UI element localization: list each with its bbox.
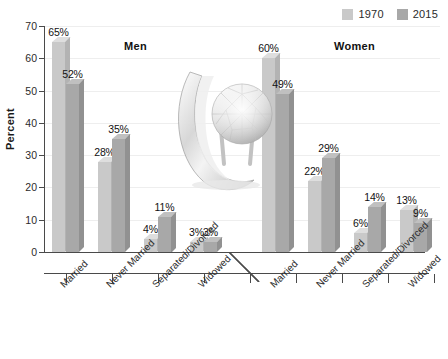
bar-women-separated-divorced-2015: 14% xyxy=(368,207,381,252)
bar-value-label: 13% xyxy=(396,194,417,206)
bar-men-separated-divorced-2015: 11% xyxy=(158,217,171,253)
y-tick-label-20: 20 xyxy=(25,181,37,193)
bar-side xyxy=(427,218,432,252)
x-axis-labels: MarriedNever MarriedSeparated/DivorcedWi… xyxy=(44,282,444,358)
legend-entry-2015: 2015 xyxy=(397,8,438,20)
bar-side xyxy=(79,79,84,252)
bar-side xyxy=(171,212,176,253)
bar-men-never-married-2015: 35% xyxy=(112,139,125,252)
bar-face xyxy=(308,181,321,252)
bar-face xyxy=(204,242,217,252)
bar-value-label: 11% xyxy=(155,201,175,213)
bar-value-label: 4% xyxy=(143,223,158,235)
bar-face xyxy=(322,158,335,252)
legend-swatch-2015 xyxy=(397,9,408,20)
bar-value-label: 6% xyxy=(353,217,368,229)
y-tick-label-10: 10 xyxy=(25,214,37,226)
bar-side xyxy=(335,153,340,252)
bar-value-label: 9% xyxy=(413,207,428,219)
y-tick-label-60: 60 xyxy=(25,52,37,64)
y-tick-label-0: 0 xyxy=(31,246,37,258)
bar-value-label: 14% xyxy=(364,191,385,203)
bar-men-never-married-1970: 28% xyxy=(98,162,111,252)
chart-legend: 1970 2015 xyxy=(342,8,438,20)
bar-value-label: 29% xyxy=(318,142,339,154)
bar-women-never-married-1970: 22% xyxy=(308,181,321,252)
bar-value-label: 52% xyxy=(62,68,83,80)
bar-face xyxy=(276,94,289,252)
bar-side xyxy=(217,237,222,252)
legend-label-1970: 1970 xyxy=(358,8,383,20)
group-title-men: Men xyxy=(124,40,147,52)
bar-value-label: 65% xyxy=(48,26,69,38)
y-tick-label-30: 30 xyxy=(25,149,37,161)
y-tick-label-70: 70 xyxy=(25,20,37,32)
bar-face xyxy=(158,217,171,253)
bar-women-never-married-2015: 29% xyxy=(322,158,335,252)
bar-face xyxy=(368,207,381,252)
y-tick-label-40: 40 xyxy=(25,117,37,129)
bar-women-married-2015: 49% xyxy=(276,94,289,252)
bar-men-widowed-2015: 3% xyxy=(204,242,217,252)
y-tick-label-50: 50 xyxy=(25,85,37,97)
bar-face xyxy=(98,162,111,252)
bar-face xyxy=(66,84,79,252)
legend-swatch-1970 xyxy=(342,9,353,20)
legend-label-2015: 2015 xyxy=(413,8,438,20)
bar-side xyxy=(381,202,386,252)
bar-side xyxy=(125,134,130,252)
bar-face xyxy=(112,139,125,252)
bar-men-married-2015: 52% xyxy=(66,84,79,252)
group-title-women: Women xyxy=(334,40,375,52)
bar-side xyxy=(289,89,294,252)
bar-value-label: 60% xyxy=(258,42,279,54)
bars-layer: 65%52%28%35%4%11%3%3%60%49%22%29%6%14%13… xyxy=(44,26,444,266)
bar-value-label: 35% xyxy=(108,123,129,135)
bar-chart: 1970 2015 Percent 010203040506070 65%52%… xyxy=(0,0,448,359)
legend-entry-1970: 1970 xyxy=(342,8,383,20)
bar-value-label: 49% xyxy=(272,78,293,90)
y-axis-title: Percent xyxy=(4,108,16,150)
